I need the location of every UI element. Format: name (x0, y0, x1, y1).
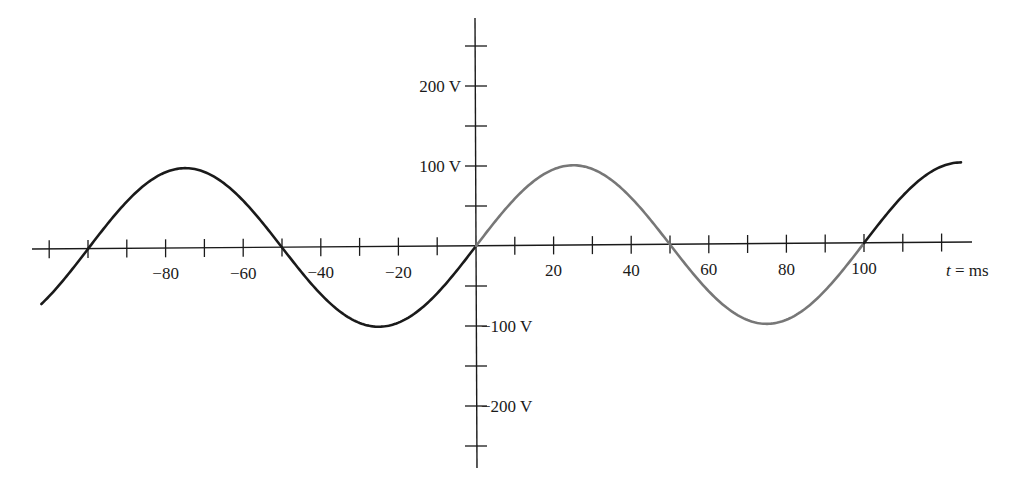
y-tick-label: 100 V (419, 157, 461, 176)
x-tick-label: 80 (778, 260, 795, 279)
x-axis: −80−60−40−2020406080100 t = ms (32, 234, 989, 284)
x-tick-label: −20 (385, 263, 412, 282)
x-axis-title-unit: = ms (951, 261, 989, 280)
y-tick-label: −200 V (481, 397, 533, 416)
x-tick-label: 40 (623, 261, 640, 280)
waveform-highlighted-period (476, 165, 864, 324)
x-axis-line (32, 242, 972, 249)
waveform-right-segment (864, 162, 961, 243)
x-axis-tick-labels: −80−60−40−2020406080100 (152, 259, 876, 283)
sine-wave-chart: −80−60−40−2020406080100 t = ms 200 V100 … (0, 0, 1020, 492)
x-axis-title: t = ms (946, 261, 989, 280)
y-axis: 200 V100 V−100 V−200 V (419, 18, 533, 468)
waveform-curves (41, 162, 961, 326)
y-tick-label: 200 V (419, 77, 461, 96)
x-tick-label: 60 (700, 260, 717, 279)
x-tick-label: −40 (308, 263, 335, 282)
x-tick-label: −80 (152, 264, 179, 283)
x-tick-label: 100 (851, 259, 877, 278)
x-tick-label: −60 (230, 264, 257, 283)
y-tick-label: −100 V (481, 317, 533, 336)
x-tick-label: 20 (545, 261, 562, 280)
